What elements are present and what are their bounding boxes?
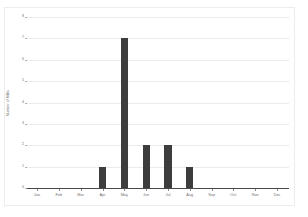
- x-tick-mark-oct: [233, 189, 234, 191]
- bar-aug: [186, 167, 193, 188]
- x-tick-mark-nov: [255, 189, 256, 191]
- y-tick-label-1: 1: [22, 165, 24, 169]
- x-tick-label-aug: Aug: [186, 194, 193, 198]
- y-axis-tick-labels: 8 7 6 5 4 3 2 1 0: [0, 0, 24, 217]
- x-tick-label-jun: Jun: [143, 194, 149, 198]
- bar-jun: [143, 145, 150, 188]
- y-axis-title: Number of MAIs: [7, 90, 11, 116]
- x-tick-label-nov: Nov: [252, 194, 259, 198]
- x-tick-label-may: May: [121, 194, 128, 198]
- bar-apr: [99, 167, 106, 188]
- x-tick-label-jan: Jan: [34, 194, 40, 198]
- x-tick-mark-aug: [190, 189, 191, 191]
- x-tick-mark-may: [124, 189, 125, 191]
- bar-jul: [164, 145, 171, 188]
- x-tick-mark-jan: [37, 189, 38, 191]
- x-tick-mark-dec: [277, 189, 278, 191]
- y-tick-label-7: 7: [22, 37, 24, 41]
- x-tick-mark-jun: [146, 189, 147, 191]
- bar-chart-figure: 8 7 6 5 4 3 2 1 0 Number of MAIs Jan: [0, 0, 308, 217]
- y-tick-label-3: 3: [22, 122, 24, 126]
- y-tick-label-6: 6: [22, 58, 24, 62]
- x-tick-label-sep: Sep: [208, 194, 215, 198]
- x-tick-label-feb: Feb: [55, 194, 62, 198]
- x-tick-mark-jul: [168, 189, 169, 191]
- y-tick-label-0: 0: [22, 186, 24, 190]
- x-tick-label-oct: Oct: [230, 194, 236, 198]
- y-tick-label-5: 5: [22, 79, 24, 83]
- bar-may: [121, 38, 128, 188]
- y-tick-label-4: 4: [22, 101, 24, 105]
- x-tick-label-jul: Jul: [165, 194, 170, 198]
- y-tick-label-2: 2: [22, 144, 24, 148]
- x-tick-label-dec: Dec: [274, 194, 281, 198]
- x-tick-mark-mar: [81, 189, 82, 191]
- x-tick-label-apr: Apr: [99, 194, 105, 198]
- x-tick-mark-apr: [103, 189, 104, 191]
- y-tick-label-8: 8: [22, 15, 24, 19]
- x-tick-mark-sep: [212, 189, 213, 191]
- x-tick-label-mar: Mar: [77, 194, 84, 198]
- x-axis-line: [27, 188, 289, 189]
- x-tick-mark-feb: [59, 189, 60, 191]
- bars-layer: [27, 17, 289, 188]
